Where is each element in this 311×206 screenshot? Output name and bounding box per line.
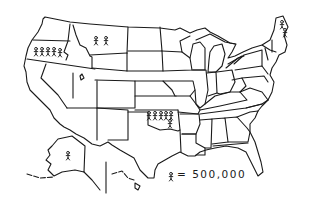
state-borders (27, 24, 276, 155)
legend-label: = 500,000 (177, 168, 246, 180)
figures-montana (94, 36, 108, 45)
figures-oklahoma (147, 111, 173, 128)
legend-figure-icon (169, 172, 173, 181)
figures-oregon (34, 47, 62, 57)
alaska-outline (27, 136, 100, 190)
hawaii-outline (106, 162, 140, 193)
us-map (0, 0, 311, 206)
figures-alaska (66, 151, 70, 160)
